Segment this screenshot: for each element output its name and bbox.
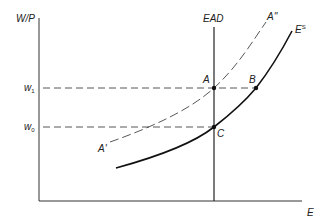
point-b-label: B (249, 75, 256, 85)
point-c-label: C (217, 129, 224, 139)
w1-label: w1 (24, 83, 35, 94)
ead-label: EAD (203, 14, 224, 24)
a-double-prime-label: A'' (267, 12, 278, 22)
a-prime-curve (110, 22, 266, 142)
labor-market-diagram (0, 0, 330, 224)
es-supply-curve (116, 31, 292, 168)
es-label: ES (295, 24, 306, 35)
point-c (212, 125, 216, 129)
y-axis-label: W/P (16, 14, 35, 24)
point-b (254, 86, 258, 90)
point-a-label: A (203, 75, 210, 85)
w0-label: w0 (24, 122, 35, 133)
a-prime-label: A' (98, 144, 107, 154)
point-a (212, 86, 216, 90)
x-axis-label: E (307, 208, 314, 218)
